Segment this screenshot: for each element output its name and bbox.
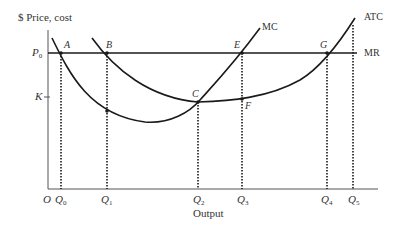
point-q1-mc [105,109,109,113]
point-label-b: B [106,40,112,50]
point-e [240,51,244,55]
point-a [59,51,63,55]
qty-label-q5: Q5 [348,194,359,207]
point-c [196,100,200,104]
qty-label-q0-sub: 0 [63,199,67,207]
mr-label: MR [364,48,380,58]
point-label-g: G [320,40,327,50]
point-g [325,51,329,55]
atc-curve [92,18,355,102]
point-label-a: A [64,40,70,50]
point-b [105,51,109,55]
y-axis-label: $ Price, cost [18,12,72,23]
price-label-k: K [35,91,42,102]
qty-label-q4-sub: 4 [329,199,333,207]
price-label-p0: P0 [32,47,42,60]
qty-label-q1-main: Q [101,193,109,205]
point-label-f: F [245,101,251,111]
price-label-p0-main: P [32,46,39,58]
intersection-points [59,51,329,113]
price-label-p0-sub: 0 [39,52,43,60]
x-axis-label: Output [193,208,224,219]
point-f [240,97,244,101]
qty-label-q1-sub: 1 [109,199,113,207]
cost-curves-diagram: $ Price, cost Output O P0 K Q0 Q1 Q2 Q3 … [0,0,401,230]
origin-label: O [43,194,51,205]
mc-curve [52,28,260,122]
qty-label-q2-main: Q [193,193,201,205]
qty-label-q1: Q1 [101,194,112,207]
mc-label: MC [262,22,278,32]
qty-label-q2-sub: 2 [201,199,205,207]
dotted-guides [61,25,353,189]
qty-label-q0-main: Q [55,193,63,205]
qty-label-q5-sub: 5 [356,199,360,207]
point-label-c: C [192,89,199,99]
qty-label-q3: Q3 [237,194,248,207]
qty-label-q2: Q2 [193,194,204,207]
qty-label-q4: Q4 [321,194,332,207]
atc-label: ATC [364,12,383,22]
point-label-e: E [234,40,240,50]
qty-label-q0: Q0 [55,194,66,207]
qty-label-q4-main: Q [321,193,329,205]
qty-label-q5-main: Q [348,193,356,205]
qty-label-q3-main: Q [237,193,245,205]
qty-label-q3-sub: 3 [245,199,249,207]
